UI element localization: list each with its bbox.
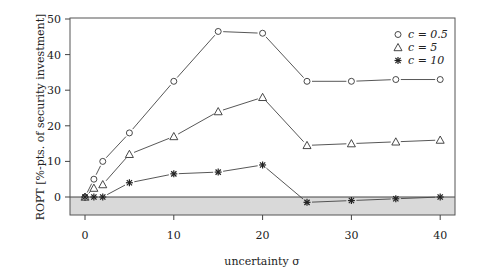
- circle-marker-icon: [437, 77, 443, 83]
- y-tick-label: 20: [47, 120, 61, 133]
- y-tick-label: 0: [54, 191, 61, 204]
- legend-item: c = 5: [394, 41, 437, 54]
- series-segment: [223, 99, 258, 110]
- series-triangle: [81, 93, 444, 200]
- series-segment: [356, 80, 390, 81]
- x-tick-label: 40: [433, 229, 447, 242]
- y-axis-label: ROPT [%-pts. of security investment]: [34, 14, 47, 221]
- triangle-marker-icon: [259, 93, 267, 100]
- asterisk-marker-icon: [304, 199, 311, 206]
- triangle-marker-icon: [303, 141, 311, 148]
- triangle-marker-icon: [394, 44, 402, 51]
- asterisk-marker-icon: [395, 57, 402, 64]
- asterisk-marker-icon: [99, 194, 106, 201]
- series-segment: [312, 144, 346, 145]
- y-tick-label: 40: [47, 49, 61, 62]
- series-segment: [89, 192, 91, 194]
- legend-label: c = 5: [408, 41, 437, 54]
- asterisk-marker-icon: [126, 179, 133, 186]
- legend-item: c = 0.5: [395, 28, 448, 41]
- series-segment: [266, 168, 303, 199]
- data-series: [81, 28, 444, 205]
- triangle-marker-icon: [436, 136, 444, 143]
- triangle-marker-icon: [125, 150, 133, 157]
- series-segment: [134, 175, 169, 182]
- circle-marker-icon: [126, 130, 132, 136]
- circle-marker-icon: [304, 78, 310, 84]
- asterisk-marker-icon: [437, 194, 444, 201]
- legend-item: c = 10: [395, 54, 445, 67]
- circle-marker-icon: [100, 158, 106, 164]
- x-tick-label: 10: [167, 229, 181, 242]
- series-segment: [356, 142, 390, 143]
- asterisk-marker-icon: [82, 194, 89, 201]
- triangle-marker-icon: [347, 140, 355, 147]
- legend-label: c = 10: [408, 54, 444, 67]
- series-segment: [133, 85, 171, 129]
- series-segment: [106, 158, 126, 181]
- asterisk-marker-icon: [392, 195, 399, 202]
- triangle-marker-icon: [214, 108, 222, 115]
- legend: c = 0.5c = 5c = 10: [394, 28, 448, 67]
- circle-marker-icon: [171, 78, 177, 84]
- circle-marker-icon: [260, 30, 266, 36]
- circle-marker-icon: [393, 77, 399, 83]
- series-segment: [266, 37, 304, 78]
- x-tick-label: 20: [256, 229, 270, 242]
- y-tick-label: 30: [47, 84, 61, 97]
- series-segment: [177, 35, 215, 77]
- y-tick-label: 50: [47, 13, 61, 26]
- series-segment: [223, 166, 258, 172]
- series-segment: [134, 138, 169, 152]
- asterisk-marker-icon: [90, 194, 97, 201]
- x-axis: 010203040: [82, 215, 448, 242]
- x-tick-label: 0: [82, 229, 89, 242]
- triangle-marker-icon: [99, 181, 107, 188]
- circle-marker-icon: [395, 32, 401, 38]
- line-chart: 01020304050 010203040 c = 0.5c = 5c = 10…: [0, 0, 478, 277]
- circle-marker-icon: [215, 28, 221, 34]
- series-segment: [106, 137, 126, 158]
- asterisk-marker-icon: [170, 170, 177, 177]
- series-segment: [107, 185, 125, 195]
- legend-label: c = 0.5: [408, 28, 448, 41]
- series-segment: [223, 32, 257, 33]
- triangle-marker-icon: [170, 132, 178, 139]
- y-tick-label: 10: [47, 155, 61, 168]
- series-segment: [401, 140, 435, 141]
- x-tick-label: 30: [344, 229, 358, 242]
- series-segment: [179, 172, 213, 173]
- series-segment: [96, 166, 100, 175]
- asterisk-marker-icon: [215, 169, 222, 176]
- circle-marker-icon: [91, 176, 97, 182]
- x-axis-label: uncertainty σ: [224, 255, 300, 268]
- asterisk-marker-icon: [348, 197, 355, 204]
- triangle-marker-icon: [392, 138, 400, 145]
- asterisk-marker-icon: [259, 161, 266, 168]
- y-axis: 01020304050: [47, 13, 70, 204]
- series-segment: [266, 101, 304, 142]
- circle-marker-icon: [348, 78, 354, 84]
- series-segment: [178, 114, 214, 134]
- series-circle: [82, 28, 443, 200]
